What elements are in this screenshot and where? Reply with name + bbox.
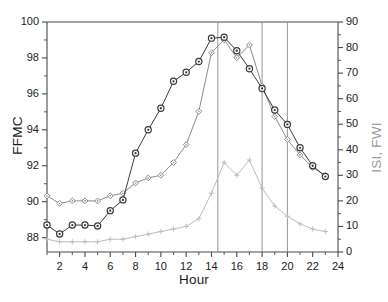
y-tick-label-left-96: 96 [5, 87, 39, 99]
marker-diamond-center [147, 177, 149, 179]
marker-diamond-center [59, 203, 61, 205]
marker-diamond-center [97, 200, 99, 202]
marker-circle-center [248, 68, 250, 70]
y-tick-label-right-80: 80 [346, 41, 380, 53]
y-tick-label-left-92: 92 [5, 159, 39, 171]
x-tick-label-2: 2 [48, 260, 72, 272]
y-tick-label-right-30: 30 [346, 168, 380, 180]
marker-circle-center [147, 129, 149, 131]
marker-diamond-center [287, 139, 289, 141]
y-tick-label-left-100: 100 [5, 15, 39, 27]
marker-diamond-center [299, 154, 301, 156]
marker-circle-center [198, 60, 200, 62]
marker-diamond-center [160, 175, 162, 177]
marker-circle-center [324, 175, 326, 177]
y-tick-label-left-98: 98 [5, 51, 39, 63]
y-tick-label-right-70: 70 [346, 66, 380, 78]
series-line-ffmc [47, 37, 325, 234]
marker-circle-center [96, 225, 98, 227]
x-tick-label-10: 10 [149, 260, 173, 272]
marker-diamond-center [84, 200, 86, 202]
marker-circle-center [134, 152, 136, 154]
marker-circle-center [261, 87, 263, 89]
series-line-fwi [47, 40, 325, 204]
x-axis-title: Hour [0, 272, 388, 287]
marker-circle-center [46, 224, 48, 226]
marker-circle-center [71, 224, 73, 226]
marker-diamond-center [173, 162, 175, 164]
y-tick-label-right-40: 40 [346, 143, 380, 155]
x-tick-label-22: 22 [301, 260, 325, 272]
plot-area [0, 0, 388, 302]
x-tick-label-16: 16 [225, 260, 249, 272]
marker-circle-center [236, 50, 238, 52]
marker-circle-center [59, 233, 61, 235]
x-tick-label-20: 20 [275, 260, 299, 272]
y-tick-label-left-88: 88 [5, 231, 39, 243]
marker-diamond-center [135, 182, 137, 184]
marker-circle-center [122, 199, 124, 201]
y-tick-label-left-90: 90 [5, 195, 39, 207]
marker-diamond-center [274, 116, 276, 118]
x-tick-label-8: 8 [124, 260, 148, 272]
marker-circle-center [223, 36, 225, 38]
x-tick-label-24: 24 [326, 260, 350, 272]
marker-circle-center [274, 109, 276, 111]
marker-circle-center [286, 123, 288, 125]
y-tick-label-right-10: 10 [346, 219, 380, 231]
y-tick-label-right-90: 90 [346, 15, 380, 27]
x-tick-label-4: 4 [73, 260, 97, 272]
marker-circle-center [299, 147, 301, 149]
x-tick-label-14: 14 [199, 260, 223, 272]
marker-circle-center [160, 107, 162, 109]
marker-diamond-center [46, 195, 48, 197]
x-tick-label-6: 6 [98, 260, 122, 272]
y-tick-label-right-50: 50 [346, 117, 380, 129]
marker-circle-center [109, 210, 111, 212]
marker-diamond-center [211, 52, 213, 54]
marker-diamond-center [198, 111, 200, 113]
y-axis-left-title: FFMC [10, 106, 25, 166]
marker-diamond-center [185, 144, 187, 146]
x-tick-label-12: 12 [174, 260, 198, 272]
y-tick-label-right-20: 20 [346, 194, 380, 206]
marker-circle-center [185, 71, 187, 73]
marker-circle-center [84, 224, 86, 226]
marker-diamond-center [122, 192, 124, 194]
y-tick-label-left-94: 94 [5, 123, 39, 135]
x-tick-label-18: 18 [250, 260, 274, 272]
marker-circle-center [312, 165, 314, 167]
marker-circle-center [172, 80, 174, 82]
y-tick-label-right-60: 60 [346, 92, 380, 104]
y-tick-label-right-0: 0 [346, 245, 380, 257]
marker-diamond-center [72, 200, 74, 202]
marker-diamond-center [236, 57, 238, 59]
ffmc-isi-fwi-chart: FFMC ISI, FWI Hour 889092949698100010203… [0, 0, 388, 302]
marker-circle-center [210, 37, 212, 39]
marker-diamond-center [249, 44, 251, 46]
marker-diamond-center [109, 195, 111, 197]
